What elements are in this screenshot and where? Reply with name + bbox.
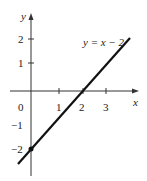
x-tick-label-3: 3 — [103, 101, 109, 113]
chart-canvas: y x 0 1 2 3 2 1 −1 −2 y = x − 2 — [0, 0, 147, 181]
y-axis-label: y — [20, 10, 26, 22]
line-series — [18, 38, 130, 164]
x-tick-label-1: 1 — [56, 101, 62, 113]
y-intercept-point — [29, 147, 34, 152]
x-axis-label: x — [132, 96, 138, 108]
y-tick-label-1: 1 — [18, 57, 24, 69]
y-tick-label-2: 2 — [18, 33, 24, 45]
y-tick-label-neg2: −2 — [11, 143, 23, 155]
x-axis-arrow-icon — [132, 89, 139, 94]
x-tick-label-2: 2 — [79, 101, 85, 113]
equation-label: y = x − 2 — [82, 36, 125, 48]
y-tick-label-neg1: −1 — [11, 119, 23, 131]
y-axis-arrow-icon — [29, 13, 34, 20]
origin-label: 0 — [18, 101, 24, 113]
